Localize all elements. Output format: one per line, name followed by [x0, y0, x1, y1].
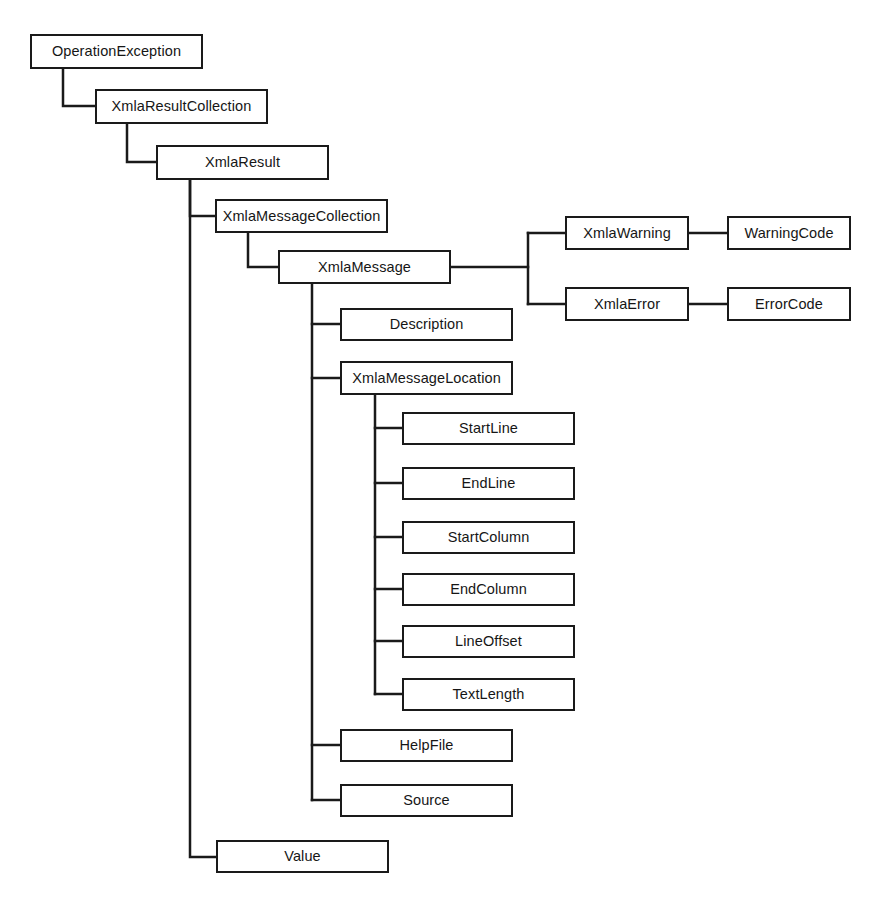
node-text-length[interactable]: TextLength — [402, 678, 575, 711]
node-label-source: Source — [399, 793, 454, 808]
node-label-xmla-error: XmlaError — [590, 297, 664, 312]
node-label-xmla-result-collection: XmlaResultCollection — [108, 99, 256, 114]
node-label-operation-exception: OperationException — [48, 44, 185, 59]
node-label-warning-code: WarningCode — [740, 226, 837, 241]
class-hierarchy-diagram: OperationExceptionXmlaResultCollectionXm… — [0, 0, 876, 903]
node-xmla-error[interactable]: XmlaError — [565, 287, 689, 321]
node-label-description: Description — [386, 317, 468, 332]
node-label-help-file: HelpFile — [396, 738, 458, 753]
node-help-file[interactable]: HelpFile — [340, 729, 513, 762]
node-end-line[interactable]: EndLine — [402, 467, 575, 500]
node-line-offset[interactable]: LineOffset — [402, 625, 575, 658]
node-xmla-message-location[interactable]: XmlaMessageLocation — [340, 361, 513, 395]
node-xmla-result[interactable]: XmlaResult — [156, 145, 329, 180]
connector-xmla-result-collection-to-xmla-result — [127, 124, 156, 162]
connector-xmla-result-to-xmla-message-collection — [190, 180, 215, 216]
node-label-value: Value — [280, 849, 325, 864]
connector-xmla-message-collection-to-xmla-message — [248, 233, 278, 267]
node-label-start-line: StartLine — [455, 421, 522, 436]
node-value[interactable]: Value — [216, 840, 389, 873]
node-label-xmla-message: XmlaMessage — [314, 260, 415, 275]
node-label-text-length: TextLength — [449, 687, 529, 702]
node-xmla-message[interactable]: XmlaMessage — [278, 250, 451, 284]
node-label-xmla-result: XmlaResult — [201, 155, 284, 170]
node-label-end-column: EndColumn — [446, 582, 531, 597]
node-error-code[interactable]: ErrorCode — [727, 287, 851, 321]
node-operation-exception[interactable]: OperationException — [30, 34, 203, 69]
connector-xmla-result-to-value — [190, 180, 216, 857]
node-label-xmla-message-collection: XmlaMessageCollection — [219, 209, 385, 224]
node-label-xmla-warning: XmlaWarning — [579, 226, 675, 241]
node-label-error-code: ErrorCode — [751, 297, 827, 312]
node-label-start-column: StartColumn — [444, 530, 534, 545]
node-label-end-line: EndLine — [458, 476, 520, 491]
connector-layer — [0, 0, 876, 903]
node-warning-code[interactable]: WarningCode — [727, 216, 851, 250]
connector-operation-exception-to-xmla-result-collection — [63, 69, 95, 106]
node-xmla-message-collection[interactable]: XmlaMessageCollection — [215, 199, 388, 233]
node-source[interactable]: Source — [340, 784, 513, 817]
node-label-line-offset: LineOffset — [451, 634, 526, 649]
node-start-line[interactable]: StartLine — [402, 412, 575, 445]
node-description[interactable]: Description — [340, 308, 513, 341]
node-xmla-warning[interactable]: XmlaWarning — [565, 216, 689, 250]
node-label-xmla-message-location: XmlaMessageLocation — [348, 371, 505, 386]
node-xmla-result-collection[interactable]: XmlaResultCollection — [95, 89, 268, 124]
node-start-column[interactable]: StartColumn — [402, 521, 575, 554]
node-end-column[interactable]: EndColumn — [402, 573, 575, 606]
